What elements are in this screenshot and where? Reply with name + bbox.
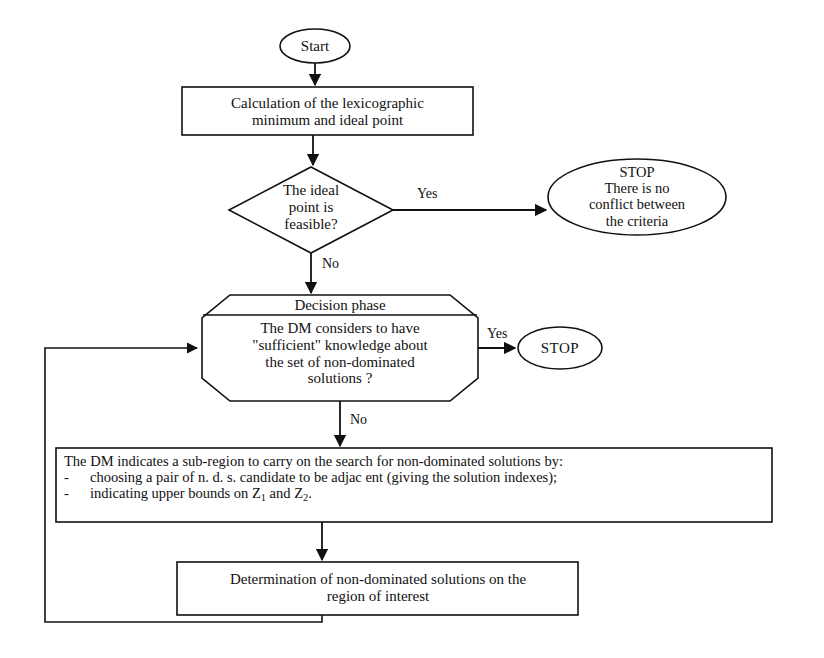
edge-label-decision-no: No xyxy=(350,412,367,428)
node-decision-phase-shape xyxy=(202,295,478,401)
node-stop-no-conflict-shape xyxy=(548,159,726,235)
edge-label-decision-yes: Yes xyxy=(487,326,507,342)
node-calculation-shape xyxy=(182,87,473,135)
flowchart-canvas: Start Calculation of the lexicographic m… xyxy=(0,0,824,658)
node-ideal-decision-shape xyxy=(229,167,393,253)
node-start-shape xyxy=(280,29,350,63)
node-stop-simple-shape xyxy=(518,327,602,369)
flowchart-graphics xyxy=(0,0,824,658)
node-dm-subregion-shape xyxy=(56,448,772,522)
edge-label-ideal-yes: Yes xyxy=(417,186,437,202)
edge-label-ideal-no: No xyxy=(322,256,339,272)
node-determination-shape xyxy=(177,562,578,615)
